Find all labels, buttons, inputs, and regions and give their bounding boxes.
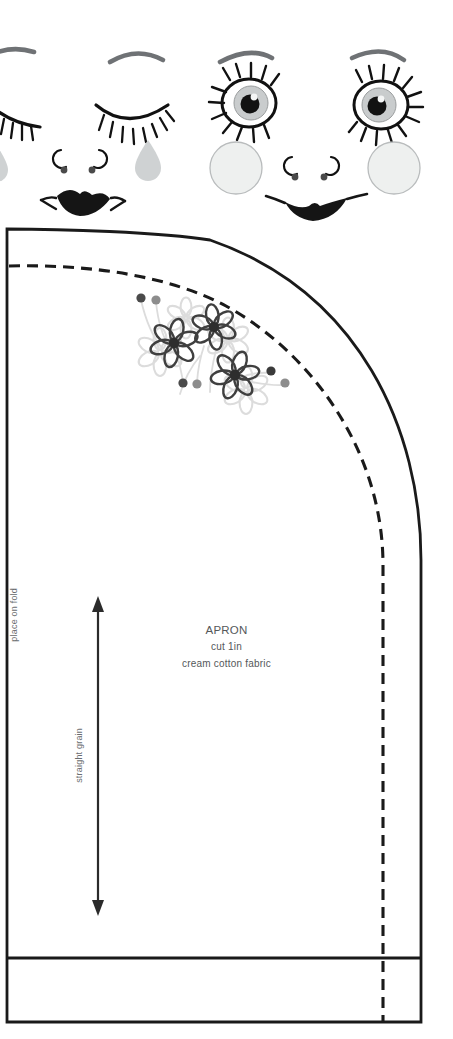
straight-grain-label: straight grain (74, 728, 84, 783)
apron-pattern-piece (0, 0, 453, 1039)
place-on-fold-label: place on fold (9, 588, 19, 642)
embroidery-motif (136, 293, 290, 414)
pattern-sheet: APRON cut 1in cream cotton fabric place … (0, 0, 453, 1039)
pattern-piece-title: APRON (0, 624, 453, 636)
cut-instruction: cut 1in (0, 641, 453, 652)
fabric-instruction: cream cotton fabric (0, 658, 453, 669)
